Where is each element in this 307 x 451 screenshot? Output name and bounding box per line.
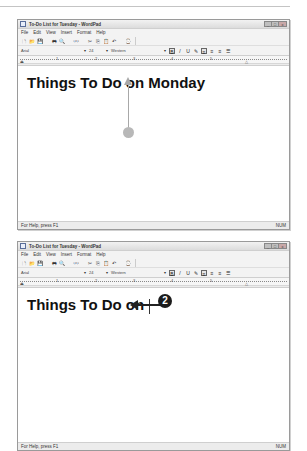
document-area[interactable]: Things To Do on [18, 287, 289, 442]
find-icon[interactable]: 👓 [73, 260, 79, 266]
menu-format[interactable]: Format [77, 30, 91, 35]
ruler[interactable]: ⏏ 1 2 3 4 5 △ [18, 278, 289, 286]
align-left-icon[interactable]: ≡ [201, 270, 207, 276]
font-size-select[interactable]: 24 [89, 270, 103, 275]
menu-insert[interactable]: Insert [61, 30, 72, 35]
indent-marker-icon[interactable]: ⏏ [20, 281, 24, 286]
font-size-value: 24 [89, 48, 93, 53]
script-dropdown-icon[interactable]: ▾ [164, 270, 166, 275]
size-dropdown-icon[interactable]: ▾ [106, 270, 108, 275]
bullets-icon[interactable]: ☰ [225, 48, 231, 54]
text-caret [149, 299, 150, 314]
align-right-icon[interactable]: ≡ [217, 48, 223, 54]
print-preview-icon[interactable]: 🔍 [59, 260, 65, 266]
print-icon[interactable]: 🖶 [51, 260, 57, 266]
italic-button[interactable]: / [177, 270, 183, 276]
menu-file[interactable]: File [21, 30, 28, 35]
underline-button[interactable]: U [185, 270, 191, 276]
cut-icon[interactable]: ✂ [87, 260, 93, 266]
ruler-number: 3 [133, 278, 135, 283]
right-indent-marker-icon[interactable]: △ [245, 59, 248, 64]
bold-button[interactable]: B [169, 48, 175, 54]
ruler-number: 5 [210, 278, 212, 283]
status-num-indicator: NUM [276, 223, 286, 228]
paste-icon[interactable]: 📋 [103, 38, 109, 44]
color-icon[interactable]: ✎ [193, 270, 199, 276]
font-select[interactable]: Arial [21, 270, 81, 275]
menu-view[interactable]: View [46, 30, 56, 35]
size-dropdown-icon[interactable]: ▾ [106, 48, 108, 53]
font-value: Arial [21, 48, 29, 53]
menu-insert[interactable]: Insert [61, 252, 72, 257]
align-center-icon[interactable]: ≡ [209, 270, 215, 276]
menu-edit[interactable]: Edit [33, 30, 41, 35]
page-divider [0, 6, 290, 7]
find-icon[interactable]: 👓 [73, 38, 79, 44]
title-bar: To-Do List for Tuesday - WordPad _ □ x [18, 20, 289, 29]
font-dropdown-icon[interactable]: ▾ [84, 48, 86, 53]
cut-icon[interactable]: ✂ [87, 38, 93, 44]
minimize-button[interactable]: _ [265, 244, 272, 248]
align-right-icon[interactable]: ≡ [217, 270, 223, 276]
bullets-icon[interactable]: ☰ [225, 270, 231, 276]
script-select[interactable]: Western [111, 270, 161, 275]
open-icon[interactable]: 📂 [29, 38, 35, 44]
ruler[interactable]: ⏏ 1 2 3 4 5 △ [18, 56, 289, 64]
font-select[interactable]: Arial [21, 48, 81, 53]
paste-icon[interactable]: 📋 [103, 260, 109, 266]
wordpad-app-icon [20, 243, 26, 249]
document-text[interactable]: Things To Do on Monday [27, 74, 205, 91]
script-select[interactable]: Western [111, 48, 161, 53]
standard-toolbar: 🗋 📂 💾 🖶 🔍 👓 ✂ ⎘ 📋 ↶ ⌚ [18, 36, 289, 46]
title-bar: To-Do List for Tuesday - WordPad _ □ x [18, 242, 289, 251]
maximize-button[interactable]: □ [272, 244, 279, 248]
undo-icon[interactable]: ↶ [111, 38, 117, 44]
toolbar-end-divider [135, 37, 136, 45]
menu-edit[interactable]: Edit [33, 252, 41, 257]
new-icon[interactable]: 🗋 [21, 260, 27, 266]
undo-icon[interactable]: ↶ [111, 260, 117, 266]
font-size-select[interactable]: 24 [89, 48, 103, 53]
print-icon[interactable]: 🖶 [51, 38, 57, 44]
date-time-icon[interactable]: ⌚ [125, 260, 131, 266]
close-button[interactable]: x [279, 244, 286, 248]
ruler-number: 4 [171, 278, 173, 283]
menu-help[interactable]: Help [96, 252, 105, 257]
font-size-value: 24 [89, 270, 93, 275]
menu-file[interactable]: File [21, 252, 28, 257]
menu-format[interactable]: Format [77, 252, 91, 257]
close-button[interactable]: x [279, 22, 286, 26]
open-icon[interactable]: 📂 [29, 260, 35, 266]
ruler-number: 1 [56, 278, 58, 283]
menu-view[interactable]: View [46, 252, 56, 257]
ruler-number: 4 [171, 56, 173, 61]
right-indent-marker-icon[interactable]: △ [245, 281, 248, 286]
font-dropdown-icon[interactable]: ▾ [84, 270, 86, 275]
color-icon[interactable]: ✎ [193, 48, 199, 54]
print-preview-icon[interactable]: 🔍 [59, 38, 65, 44]
ruler-number: 2 [95, 56, 97, 61]
toolbar-end-divider [135, 259, 136, 267]
align-center-icon[interactable]: ≡ [209, 48, 215, 54]
date-time-icon[interactable]: ⌚ [125, 38, 131, 44]
save-icon[interactable]: 💾 [37, 260, 43, 266]
underline-button[interactable]: U [185, 48, 191, 54]
italic-button[interactable]: / [177, 48, 183, 54]
bold-button[interactable]: B [169, 270, 175, 276]
document-area[interactable]: Things To Do on Monday [18, 65, 289, 221]
save-icon[interactable]: 💾 [37, 38, 43, 44]
maximize-button[interactable]: □ [272, 22, 279, 26]
status-help-text: For Help, press F1 [21, 444, 58, 449]
step-2-badge: 2 [158, 294, 172, 308]
menu-help[interactable]: Help [96, 30, 105, 35]
indent-marker-icon[interactable]: ⏏ [20, 59, 24, 64]
copy-icon[interactable]: ⎘ [95, 260, 101, 266]
minimize-button[interactable]: _ [265, 22, 272, 26]
status-bar: For Help, press F1 NUM [18, 442, 289, 450]
window-title: To-Do List for Tuesday - WordPad [29, 244, 264, 249]
align-left-icon[interactable]: ≡ [201, 48, 207, 54]
new-icon[interactable]: 🗋 [21, 38, 27, 44]
script-dropdown-icon[interactable]: ▾ [164, 48, 166, 53]
copy-icon[interactable]: ⎘ [95, 38, 101, 44]
script-value: Western [111, 48, 126, 53]
